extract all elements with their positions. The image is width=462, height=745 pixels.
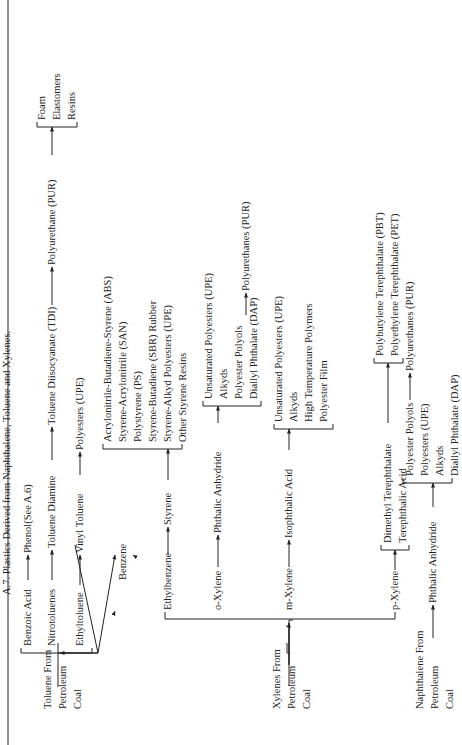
rotated-page: A.7. Plastics Derived from Naphthalene, … <box>0 0 457 745</box>
source-arrows <box>0 0 457 745</box>
